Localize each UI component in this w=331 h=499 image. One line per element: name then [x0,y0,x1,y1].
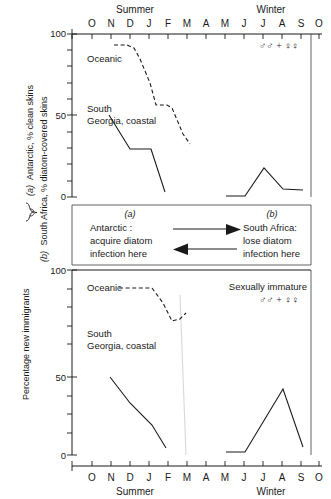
axis-title-b-tag: (b) [39,251,49,262]
bottom-month-axis: O N D J F M A M J J A S O Summer Winter [72,461,323,497]
annotation-band: (a) Antarctic : acquire diatom infection… [72,205,311,265]
axis-title-a: (a) Antarctic, % clean skins [25,84,35,196]
panel-a: 100 50 0 Oceanic South Georgia, [50,28,311,202]
month-label-top-11: S [298,18,305,29]
panel-b-ytick-50: 50 [55,372,66,383]
panel-b-series-south-africa [226,389,303,452]
panel-b: 100 50 0 Oceanic South [50,265,311,461]
month-label-top-4: F [165,18,171,29]
annotation-right-tag: (b) [267,209,278,219]
left-axis-titles: (a) Antarctic, % clean skins (b) South A… [21,84,49,400]
annotation-right-line3: infection here [243,248,300,259]
month-label-bottom-8: J [242,472,247,483]
panel-a-label-south-georgia-2: Georgia, coastal [87,115,156,126]
annotation-left-line3: infection here [90,248,147,259]
month-label-top-8: J [242,18,247,29]
month-label-top-5: M [183,18,191,29]
panel-a-sex-symbols: ♂♂ + ♀♀ [259,41,299,51]
arrow-right-icon [173,224,241,235]
panel-b-sex-symbols: ♂♂ + ♀♀ [259,295,299,305]
month-label-bottom-5: M [183,472,191,483]
annotation-right-line1: South Africa: [243,222,297,233]
month-label-top-6: A [203,18,210,29]
month-label-top-10: A [279,18,286,29]
panel-b-label-south-georgia-2: Georgia, coastal [87,340,156,351]
month-label-bottom-1: N [107,472,114,483]
month-label-top-0: O [88,18,96,29]
annotation-left-line2: acquire diatom [90,235,152,246]
panel-a-ytick-0: 0 [61,191,66,202]
panel-b-label-oceanic: Oceanic [87,282,122,293]
axis-title-a-tag: (a) [25,185,35,196]
month-label-bottom-12: O [315,472,323,483]
annotation-right-line2: lose diatom [243,235,292,246]
panel-a-series-south-africa [226,168,303,196]
annotation-left-tag: (a) [125,209,136,219]
axis-title-a-text: Antarctic, % clean skins [25,84,35,180]
panel-a-ytick-50: 50 [55,110,66,121]
axis-title-percentage-new-immigrants: Percentage new immigrants [21,288,31,400]
panel-a-label-south-georgia-1: South [87,103,112,114]
month-label-bottom-11: S [298,472,305,483]
brace-group-icon [26,203,34,221]
season-label-summer-top: Summer [116,4,154,15]
panel-a-series-south-georgia [109,115,165,192]
month-label-top-7: M [221,18,229,29]
two-panel-line-chart: Summer Winter O N D J F M A M J J A S O [0,0,331,499]
month-label-bottom-0: O [88,472,96,483]
season-label-winter-bottom: Winter [257,486,287,497]
axis-title-b-text: South Africa, % diatom-covered skins [39,96,49,246]
panel-b-ytick-0: 0 [61,450,66,461]
arrow-left-icon [173,244,237,256]
panel-b-series-transition [180,295,186,455]
month-label-bottom-2: D [126,472,133,483]
month-label-top-1: N [107,18,114,29]
panel-a-label-oceanic: Oceanic [87,53,122,64]
panel-b-label-south-georgia-1: South [87,328,112,339]
month-label-bottom-10: A [279,472,286,483]
figure-container: Summer Winter O N D J F M A M J J A S O [0,0,331,499]
month-label-top-9: J [261,18,266,29]
month-label-bottom-6: A [203,472,210,483]
month-label-bottom-9: J [261,472,266,483]
annotation-left-line1: Antarctic : [90,222,132,233]
month-label-bottom-7: M [221,472,229,483]
axis-title-b: (b) South Africa, % diatom-covered skins [39,96,49,262]
panel-b-series-south-georgia [110,377,166,448]
season-label-winter-top: Winter [257,4,287,15]
panel-b-series-oceanic [119,288,186,321]
panel-a-series-oceanic [114,45,190,144]
month-label-bottom-4: F [165,472,171,483]
top-month-axis: Summer Winter O N D J F M A M J J A S O [72,4,323,39]
month-label-top-3: J [147,18,152,29]
panel-a-ytick-100: 100 [50,28,66,39]
month-label-bottom-3: J [147,472,152,483]
month-label-top-12: O [315,18,323,29]
panel-b-ytick-100: 100 [50,265,66,276]
panel-b-label-maturity: Sexually immature [229,281,307,292]
season-label-summer-bottom: Summer [116,486,154,497]
month-label-top-2: D [126,18,133,29]
